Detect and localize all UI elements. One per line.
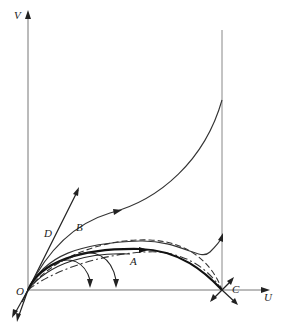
phase-plane-diagram: V U O C D B A <box>0 0 287 326</box>
v-axis-arrow-icon <box>25 10 31 19</box>
diagram-drawing <box>0 0 287 326</box>
origin-label: O <box>16 286 24 297</box>
u-axis-label: U <box>264 292 272 303</box>
point-c-label: C <box>232 284 239 295</box>
trajectory-b-label: B <box>76 222 83 233</box>
trajectory-a <box>28 247 222 290</box>
trajectory-a-label: A <box>130 256 137 267</box>
trajectory-d-label: D <box>44 228 52 239</box>
v-axis-label: V <box>14 10 21 21</box>
